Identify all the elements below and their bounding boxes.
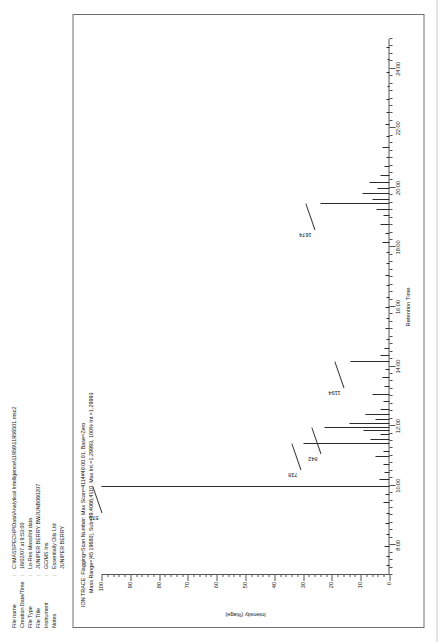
chromatogram-peak — [384, 472, 389, 473]
y-axis-minor-tick — [366, 575, 367, 578]
peak-leader-line — [305, 204, 315, 230]
x-axis-minor-tick — [389, 276, 392, 277]
x-axis-minor-tick — [389, 179, 392, 180]
chromatogram-peak — [384, 348, 389, 349]
chromatogram-peak — [365, 414, 389, 415]
chromatogram-peak — [384, 546, 389, 547]
x-axis-minor-tick — [389, 529, 392, 530]
chromatogram-peak — [370, 439, 389, 440]
y-axis-minor-tick — [193, 575, 194, 578]
chart-frame: ION TRACE: Flagging=Scan Number: Max Sca… — [72, 14, 424, 628]
y-axis-minor-tick — [124, 575, 125, 578]
x-axis-minor-tick — [389, 410, 392, 411]
y-axis-tick-label: 0 — [386, 582, 392, 585]
x-axis-tick-label: 20:00 — [395, 181, 401, 195]
x-axis-minor-tick — [389, 470, 392, 471]
metadata-row: Instrument:GC/MS Ins — [42, 406, 50, 628]
x-axis-minor-tick — [389, 351, 392, 352]
x-axis-minor-tick — [389, 239, 392, 240]
chromatogram-peak — [382, 377, 389, 378]
y-axis-tick — [130, 575, 131, 581]
plot-area: Intensity (%age) Retention Time 01020304… — [101, 39, 389, 575]
x-axis-tick-label: 10:00 — [395, 479, 401, 493]
metadata-row: JUNIPER BERRY — [58, 406, 66, 628]
y-axis-tick — [245, 575, 246, 581]
chromatogram-peak — [386, 513, 389, 514]
chromatogram-peak — [380, 175, 389, 176]
file-metadata-table: File name:C:\MASSPECHP\Data\Analytical I… — [10, 406, 66, 628]
y-axis-minor-tick — [383, 575, 384, 578]
chromatogram-peak — [386, 565, 389, 566]
chromatogram-peak — [386, 47, 389, 48]
metadata-value: C:\MASSPECHP\Data\Analytical Intelligenc… — [10, 406, 18, 569]
x-axis-minor-tick — [389, 142, 392, 143]
y-axis-minor-tick — [337, 575, 338, 578]
y-axis-minor-tick — [326, 575, 327, 578]
x-axis-minor-tick — [389, 343, 392, 344]
y-axis-minor-tick — [320, 575, 321, 578]
y-axis-minor-tick — [141, 575, 142, 578]
metadata-label — [58, 576, 66, 628]
y-axis-minor-tick — [205, 575, 206, 578]
chromatogram-peak — [384, 386, 389, 387]
metadata-label: Notes — [50, 576, 58, 628]
chromatogram-peak — [385, 523, 389, 524]
peak-leader-line — [291, 444, 301, 470]
y-axis-tick — [389, 575, 390, 581]
peak-leader-line — [334, 362, 344, 388]
chromatogram-peak — [387, 86, 389, 87]
x-axis-minor-tick — [389, 321, 392, 322]
chart-subtitle: Mass Range=[45 19680], Sub=39.4066,4110.… — [87, 393, 94, 593]
chart-title: ION TRACE: Flagging=Scan Number: Max Sca… — [79, 423, 86, 607]
chromatogram-peak — [385, 328, 389, 329]
chromatogram-peak — [383, 502, 389, 503]
x-axis-minor-tick — [389, 507, 392, 508]
y-axis-minor-tick — [291, 575, 292, 578]
chromatogram-peak — [380, 355, 389, 356]
chromatogram-peak — [385, 233, 389, 234]
chromatogram-peak — [386, 318, 389, 319]
chromatogram-peak — [382, 147, 389, 148]
x-axis-minor-tick — [389, 514, 392, 515]
chromatogram-peak — [386, 157, 389, 158]
y-axis-minor-tick — [377, 575, 378, 578]
x-axis-tick-label: 22:00 — [395, 121, 401, 135]
chromatogram-peak — [386, 339, 389, 340]
file-metadata-block: File name:C:\MASSPECHP\Data\Analytical I… — [10, 406, 66, 628]
chromatogram-peak — [380, 224, 389, 225]
chromatogram-peak — [324, 427, 389, 428]
x-axis-minor-tick — [389, 90, 392, 91]
x-axis-minor-tick — [389, 38, 392, 39]
chromatogram-peak — [383, 215, 389, 216]
x-axis-minor-tick — [389, 83, 392, 84]
metadata-separator: : — [18, 569, 26, 576]
chromatogram-peak — [386, 534, 389, 535]
x-axis-minor-tick — [389, 567, 392, 568]
chromatogram-peak — [386, 556, 389, 557]
metadata-separator: : — [26, 569, 34, 576]
chromatogram-peak — [377, 188, 389, 189]
y-axis-minor-tick — [343, 575, 344, 578]
metadata-value: GC/MS Ins — [42, 406, 50, 569]
chromatogram-peak — [369, 182, 389, 183]
chromatogram-peak — [385, 369, 389, 370]
x-axis-minor-tick — [389, 559, 392, 560]
x-axis-minor-tick — [389, 537, 392, 538]
x-axis-minor-tick — [389, 254, 392, 255]
metadata-label: Instrument — [42, 576, 50, 628]
chromatogram-peak — [386, 297, 389, 298]
peak-leader-line — [311, 427, 321, 453]
x-axis-minor-tick — [389, 395, 392, 396]
metadata-label: Creation Date/Time — [18, 576, 26, 628]
x-axis-tick-label: 18:00 — [395, 240, 401, 254]
chromatogram-peak — [384, 166, 389, 167]
y-axis-tick — [331, 575, 332, 581]
chromatogram-peak — [385, 494, 389, 495]
x-axis-title: Retention Time — [404, 288, 410, 327]
y-axis-minor-tick — [153, 575, 154, 578]
y-axis-tick-label: 20 — [329, 582, 335, 588]
chromatogram-peak — [349, 423, 389, 424]
x-axis-minor-tick — [389, 477, 392, 478]
metadata-label: File Title — [34, 576, 42, 628]
y-axis-tick — [159, 575, 160, 581]
